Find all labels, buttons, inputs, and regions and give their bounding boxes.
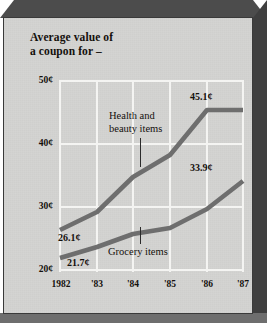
annotation-grocery-line-1: Grocery items <box>108 246 168 259</box>
data-label-health-start: 26.1¢ <box>58 232 81 243</box>
xtick-label-83: '83 <box>77 279 117 289</box>
annotation-health-line-1: Health and <box>109 110 162 123</box>
ytick-label-30: 30¢ <box>19 201 53 211</box>
xtick-label-1982: 1982 <box>41 279 81 289</box>
ytick-label-50: 50¢ <box>19 75 53 85</box>
ytick-label-20: 20¢ <box>19 264 53 274</box>
xtick-label-85: '85 <box>150 279 190 289</box>
data-label-grocery-start: 21.7¢ <box>67 257 90 268</box>
chart-title-line-1: Average value of <box>30 31 210 45</box>
frame-bottom-bevel <box>0 313 267 323</box>
xtick-label-84: '84 <box>113 279 153 289</box>
xtick-label-87: '87 <box>223 279 263 289</box>
data-label-health-end: 45.1¢ <box>190 91 213 102</box>
frame-right-bevel <box>253 0 267 323</box>
annotation-grocery-leader-line <box>140 227 141 244</box>
chart-title-line-2: a coupon for – <box>30 45 210 59</box>
chart-screenshot: Average value of a coupon for – 50¢ 40¢ … <box>0 0 267 323</box>
data-label-grocery-end: 33.9¢ <box>190 162 213 173</box>
plot-area: 50¢ 40¢ 30¢ 20¢ 1982 '83 '84 '85 '86 '87… <box>59 80 244 272</box>
chart-title: Average value of a coupon for – <box>30 31 210 58</box>
frame-top-bevel <box>0 0 267 18</box>
xtick-label-86: '86 <box>187 279 227 289</box>
annotation-grocery-items: Grocery items <box>108 246 168 259</box>
ytick-label-40: 40¢ <box>19 138 53 148</box>
series-container <box>59 80 244 272</box>
annotation-health-and-beauty-items: Health and beauty items <box>109 110 162 135</box>
annotation-health-leader-line <box>140 138 141 167</box>
annotation-health-line-2: beauty items <box>109 123 162 136</box>
